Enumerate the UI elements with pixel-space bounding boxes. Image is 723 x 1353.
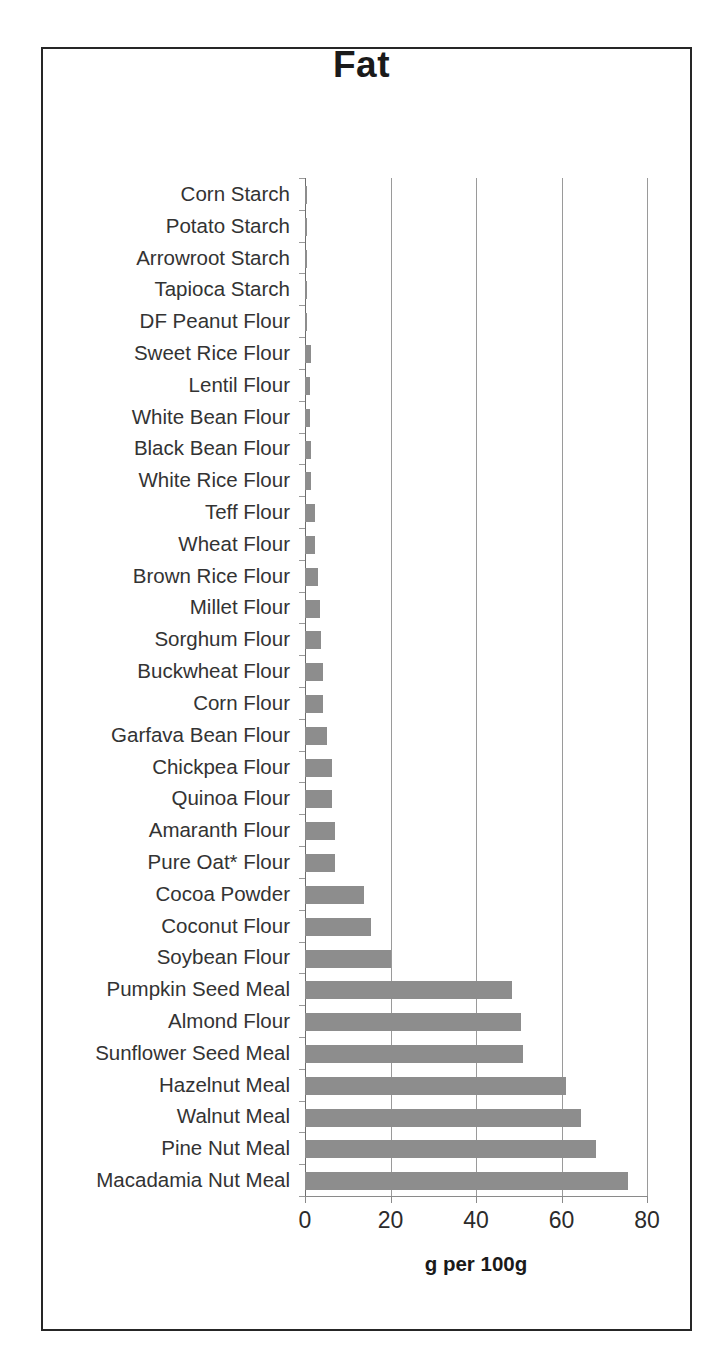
bar-row <box>305 1037 647 1069</box>
bar <box>305 950 391 968</box>
bar-row <box>305 178 647 210</box>
y-axis-tick <box>299 910 305 911</box>
category-label: Walnut Meal <box>40 1101 298 1133</box>
bar <box>305 472 311 490</box>
bar <box>305 854 335 872</box>
y-axis-tick <box>299 1101 305 1102</box>
bar-row <box>305 973 647 1005</box>
y-axis-tick <box>299 305 305 306</box>
y-axis-tick <box>299 401 305 402</box>
bar <box>305 409 310 427</box>
category-label: Pine Nut Meal <box>40 1132 298 1164</box>
y-axis-tick <box>299 369 305 370</box>
bar <box>305 1077 566 1095</box>
y-axis-tick <box>299 1005 305 1006</box>
bar-row <box>305 910 647 942</box>
bar-row <box>305 942 647 974</box>
bar-row <box>305 1101 647 1133</box>
y-axis-tick <box>299 1164 305 1165</box>
category-label: White Bean Flour <box>40 401 298 433</box>
bar <box>305 568 318 586</box>
category-label: Buckwheat Flour <box>40 655 298 687</box>
x-axis-tick-label: 0 <box>270 1207 340 1234</box>
bar <box>305 441 311 459</box>
fat-content-bar-chart-figure: Fat Corn StarchPotato StarchArrowroot St… <box>0 0 723 1353</box>
bar-row <box>305 496 647 528</box>
bar <box>305 1172 628 1190</box>
bar <box>305 1045 523 1063</box>
category-label: Macadamia Nut Meal <box>40 1164 298 1196</box>
y-axis-tick <box>299 273 305 274</box>
category-label: Garfava Bean Flour <box>40 719 298 751</box>
category-label: Arrowroot Starch <box>40 242 298 274</box>
bar <box>305 1109 581 1127</box>
category-label: Tapioca Starch <box>40 273 298 305</box>
x-axis-title: g per 100g <box>305 1252 647 1276</box>
y-axis-tick <box>299 1196 305 1197</box>
bar-row <box>305 655 647 687</box>
bar-row <box>305 782 647 814</box>
bar <box>305 790 332 808</box>
bar <box>305 377 310 395</box>
bar-row <box>305 560 647 592</box>
chart-title: Fat <box>0 44 723 86</box>
y-axis-tick <box>299 1069 305 1070</box>
bar-row <box>305 846 647 878</box>
category-label: Almond Flour <box>40 1005 298 1037</box>
y-axis-tick <box>299 973 305 974</box>
bar <box>305 918 371 936</box>
y-axis-tick <box>299 878 305 879</box>
category-label: Hazelnut Meal <box>40 1069 298 1101</box>
bar <box>305 822 335 840</box>
y-axis-tick <box>299 592 305 593</box>
bar <box>305 281 307 299</box>
x-axis-tick-40 <box>476 1196 477 1203</box>
category-label: Corn Flour <box>40 687 298 719</box>
category-label: Lentil Flour <box>40 369 298 401</box>
category-label: Black Bean Flour <box>40 433 298 465</box>
y-axis-tick <box>299 782 305 783</box>
bar-row <box>305 528 647 560</box>
y-axis-tick <box>299 751 305 752</box>
bar <box>305 663 323 681</box>
bar-row <box>305 337 647 369</box>
y-axis-tick <box>299 178 305 179</box>
y-axis-tick <box>299 433 305 434</box>
bar-row <box>305 369 647 401</box>
y-axis-tick <box>299 655 305 656</box>
bar <box>305 250 307 268</box>
bar <box>305 1013 521 1031</box>
y-axis-tick <box>299 560 305 561</box>
bar <box>305 186 307 204</box>
category-label: Amaranth Flour <box>40 814 298 846</box>
gridline-80 <box>647 178 648 1196</box>
category-label: Chickpea Flour <box>40 751 298 783</box>
bar-row <box>305 1164 647 1196</box>
x-axis-tick-label: 60 <box>527 1207 597 1234</box>
bar <box>305 313 307 331</box>
bar-series <box>305 178 647 1196</box>
category-label: Potato Starch <box>40 210 298 242</box>
bar-row <box>305 1005 647 1037</box>
category-label: Sweet Rice Flour <box>40 337 298 369</box>
category-label: Coconut Flour <box>40 910 298 942</box>
y-axis-tick <box>299 337 305 338</box>
category-label: Sorghum Flour <box>40 623 298 655</box>
y-axis-tick <box>299 623 305 624</box>
category-label: White Rice Flour <box>40 464 298 496</box>
category-label: Pumpkin Seed Meal <box>40 973 298 1005</box>
y-axis-tick <box>299 846 305 847</box>
bar <box>305 504 315 522</box>
y-axis-tick <box>299 687 305 688</box>
y-axis-tick <box>299 1037 305 1038</box>
category-label: Quinoa Flour <box>40 782 298 814</box>
bar <box>305 1140 596 1158</box>
y-axis-tick <box>299 719 305 720</box>
bar <box>305 536 315 554</box>
category-label: Corn Starch <box>40 178 298 210</box>
category-axis-labels: Corn StarchPotato StarchArrowroot Starch… <box>40 178 298 1196</box>
plot-area <box>305 178 647 1196</box>
bar-row <box>305 273 647 305</box>
y-axis-tick <box>299 528 305 529</box>
y-axis-tick <box>299 942 305 943</box>
